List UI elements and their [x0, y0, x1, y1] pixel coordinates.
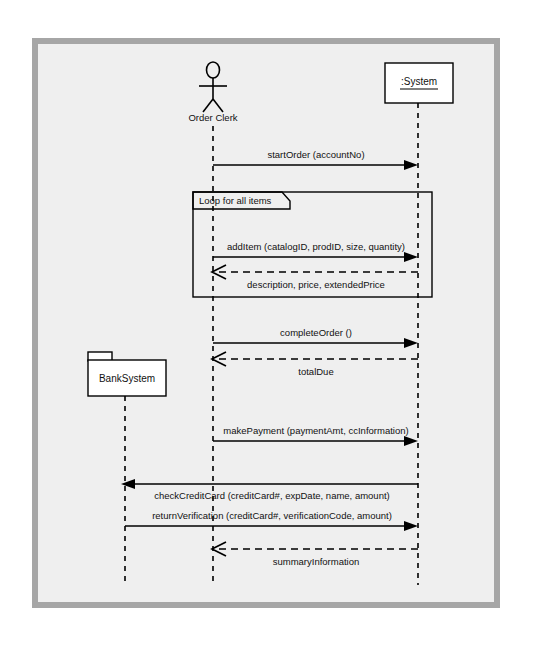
- arrowhead-check-credit-card: [121, 479, 135, 489]
- loop-fragment-label: Loop for all items: [199, 195, 272, 206]
- arrowhead-make-payment: [404, 436, 418, 446]
- message-label-make-payment: makePayment (paymentAmt, ccInformation): [223, 425, 408, 436]
- message-add-item[interactable]: addItem (catalogID, prodID, size, quanti…: [213, 241, 418, 262]
- arrowhead-add-item: [404, 252, 418, 262]
- message-label-check-credit-card: checkCreditCard (creditCard#, expDate, n…: [154, 490, 390, 501]
- message-label-complete-order: completeOrder (): [280, 327, 352, 338]
- participant-system[interactable]: :System: [385, 63, 453, 585]
- participant-bank-system[interactable]: BankSystem: [88, 352, 166, 585]
- message-label-description-price: description, price, extendedPrice: [247, 279, 385, 290]
- participant-label-bank-system: BankSystem: [99, 373, 155, 384]
- sequence-diagram: Order Clerk :System BankSystem Loop for …: [0, 0, 546, 646]
- participant-label-system: :System: [401, 76, 437, 87]
- message-total-due[interactable]: totalDue: [212, 352, 418, 377]
- message-complete-order[interactable]: completeOrder (): [213, 327, 418, 348]
- message-description-price[interactable]: description, price, extendedPrice: [212, 265, 418, 290]
- diagram-stage: Order Clerk :System BankSystem Loop for …: [0, 0, 546, 646]
- message-make-payment[interactable]: makePayment (paymentAmt, ccInformation): [213, 425, 418, 446]
- message-label-start-order: startOrder (accountNo): [267, 149, 364, 160]
- arrowhead-return-verification: [404, 521, 418, 531]
- message-check-credit-card[interactable]: checkCreditCard (creditCard#, expDate, n…: [121, 479, 418, 501]
- arrowhead-start-order: [404, 160, 418, 170]
- actor-icon: [199, 62, 227, 112]
- message-label-summary-information: summaryInformation: [273, 556, 360, 567]
- message-return-verification[interactable]: returnVerification (creditCard#, verific…: [125, 510, 418, 531]
- message-start-order[interactable]: startOrder (accountNo): [213, 149, 418, 170]
- message-label-add-item: addItem (catalogID, prodID, size, quanti…: [227, 241, 405, 252]
- message-summary-information[interactable]: summaryInformation: [212, 542, 418, 567]
- arrowhead-complete-order: [404, 338, 418, 348]
- message-label-total-due: totalDue: [298, 366, 333, 377]
- message-label-return-verification: returnVerification (creditCard#, verific…: [152, 510, 392, 521]
- participant-order-clerk[interactable]: Order Clerk: [188, 62, 237, 585]
- participant-label-order-clerk: Order Clerk: [188, 112, 237, 123]
